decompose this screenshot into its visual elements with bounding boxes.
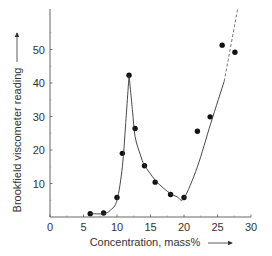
data-point xyxy=(195,129,200,134)
x-tick-label: 25 xyxy=(211,221,223,233)
x-tick-label: 15 xyxy=(144,221,156,233)
x-tick-label: 10 xyxy=(111,221,123,233)
chart: 0510152025301020304050 Concentration, ma… xyxy=(0,0,272,256)
x-axis-label: Concentration, mass% xyxy=(90,236,201,248)
x-tick-label: 20 xyxy=(178,221,190,233)
data-point xyxy=(232,49,237,54)
extrapolation-dashed-line xyxy=(224,9,237,81)
plot-area xyxy=(88,9,238,216)
x-tick-label: 0 xyxy=(47,221,53,233)
y-tick-label: 40 xyxy=(33,77,45,89)
data-point xyxy=(120,151,125,156)
y-axis-label: Brookfield viscometer reading xyxy=(11,68,23,213)
axes: 0510152025301020304050 xyxy=(33,9,257,233)
fitted-curve xyxy=(90,75,224,214)
data-point xyxy=(219,42,224,47)
y-tick-label: 50 xyxy=(33,44,45,56)
x-tick-label: 30 xyxy=(245,221,257,233)
y-tick-label: 30 xyxy=(33,111,45,123)
y-tick-label: 20 xyxy=(33,144,45,156)
y-tick-label: 10 xyxy=(33,178,45,190)
data-point xyxy=(132,126,137,131)
x-tick-label: 5 xyxy=(80,221,86,233)
